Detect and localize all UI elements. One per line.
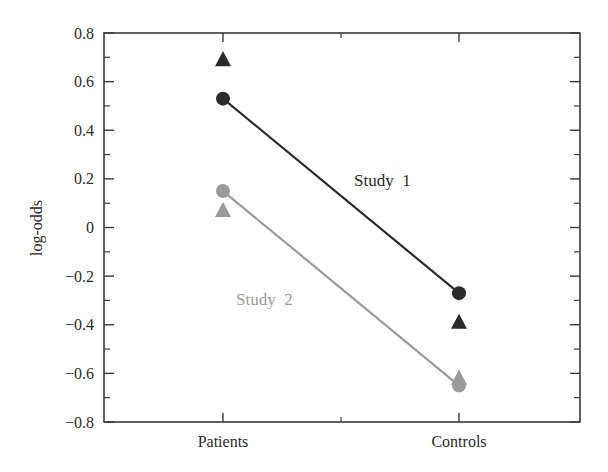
circle-marker — [452, 379, 466, 393]
y-tick-label: −0.6 — [65, 365, 94, 382]
series-labels: Study 1Study 2 — [236, 171, 411, 309]
series-layer — [215, 51, 467, 392]
series-study-2 — [215, 184, 467, 393]
y-tick-label: 0 — [86, 219, 94, 236]
circle-marker — [216, 184, 230, 198]
series-line — [223, 191, 459, 386]
triangle-marker — [215, 51, 231, 66]
triangle-marker — [215, 202, 231, 217]
series-label-study-2: Study 2 — [236, 290, 293, 309]
chart: 0.80.60.40.20−0.2−0.4−0.6−0.8 PatientsCo… — [0, 0, 608, 472]
series-line — [223, 99, 459, 293]
y-tick-label: 0.8 — [74, 25, 94, 42]
circle-marker — [452, 286, 466, 300]
y-tick-label: −0.8 — [65, 414, 94, 431]
y-tick-label: 0.4 — [74, 122, 94, 139]
series-label-study-1: Study 1 — [354, 171, 411, 190]
plot-frame — [104, 33, 580, 422]
x-axis-ticks: PatientsControls — [198, 33, 487, 450]
circle-marker — [216, 92, 230, 106]
y-tick-label: −0.4 — [65, 316, 94, 333]
y-axis-ticks: 0.80.60.40.20−0.2−0.4−0.6−0.8 — [65, 25, 580, 431]
y-tick-label: 0.2 — [74, 170, 94, 187]
plot-border — [104, 33, 580, 422]
y-tick-label: −0.2 — [65, 268, 94, 285]
x-tick-label-controls: Controls — [431, 433, 486, 450]
y-axis-label: log-odds — [28, 200, 46, 256]
triangle-marker — [451, 314, 467, 329]
y-tick-label: 0.6 — [74, 73, 94, 90]
x-tick-label-patients: Patients — [198, 433, 249, 450]
